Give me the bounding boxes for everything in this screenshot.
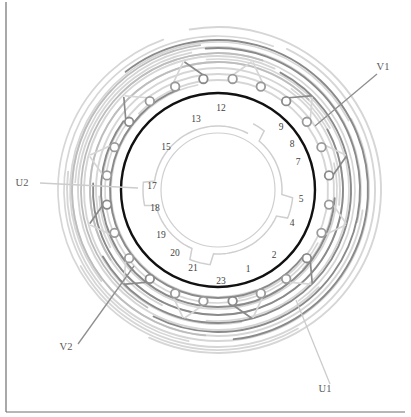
connection-node: [257, 82, 266, 91]
connection-node: [171, 82, 180, 91]
connection-node: [257, 289, 266, 298]
slot-number: 1: [246, 264, 251, 274]
terminal-label-v2: V2: [60, 341, 73, 352]
terminal-label-v1: V1: [377, 61, 390, 72]
connection-node: [228, 297, 237, 306]
connection-node: [146, 97, 155, 106]
slot-number: 19: [156, 230, 166, 240]
connection-node: [303, 254, 312, 263]
slot-number: 7: [296, 157, 301, 167]
connection-node: [171, 289, 180, 298]
connection-node: [282, 97, 291, 106]
terminal-label-u2: U2: [16, 177, 29, 188]
stator-winding-svg: 1245789121315171819202123 V1U2V2U1: [0, 0, 411, 417]
slot-number: 15: [161, 142, 171, 152]
slot-number: 17: [147, 181, 157, 191]
connection-node: [317, 143, 326, 152]
slot-number: 5: [299, 194, 304, 204]
connection-node: [110, 143, 119, 152]
slot-number: 23: [216, 276, 226, 286]
connection-node: [199, 75, 208, 84]
connection-node: [103, 200, 112, 209]
winding-diagram-canvas: 1245789121315171819202123 V1U2V2U1: [0, 0, 411, 417]
terminal-label-u1: U1: [319, 383, 332, 394]
slot-number: 12: [216, 103, 226, 113]
connection-node: [125, 254, 134, 263]
connection-node: [303, 118, 312, 127]
connection-node: [317, 229, 326, 238]
slot-number: 9: [279, 122, 284, 132]
connection-node: [228, 75, 237, 84]
connection-node: [325, 171, 334, 180]
slot-number: 8: [290, 139, 295, 149]
slot-number: 18: [150, 203, 160, 213]
connection-node: [282, 275, 291, 284]
slot-number: 2: [272, 250, 277, 260]
connection-node: [325, 200, 334, 209]
connection-node: [199, 297, 208, 306]
slot-number: 20: [170, 248, 180, 258]
connection-node: [110, 229, 119, 238]
connection-node: [125, 118, 134, 127]
slot-number: 4: [290, 218, 295, 228]
slot-number: 21: [188, 263, 198, 273]
connection-node: [146, 275, 155, 284]
connection-node: [103, 171, 112, 180]
slot-number: 13: [191, 114, 201, 124]
